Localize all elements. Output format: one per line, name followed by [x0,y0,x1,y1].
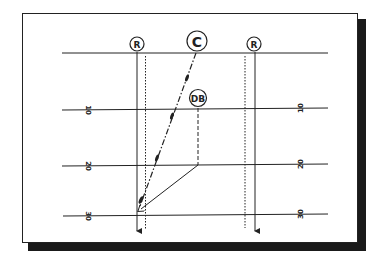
left-yard-label-20: 20 [84,161,92,171]
player-center: C [187,31,207,51]
left-yard-label-10: 10 [84,105,92,115]
left-yard-label-30: 30 [84,211,92,221]
player-r-right: R [247,37,261,51]
player-label: R [251,40,258,50]
player-db: DB [190,90,207,107]
right-yard-labels: 10 20 30 [297,103,305,219]
player-label: DB [191,94,205,104]
yard-lines [62,53,328,216]
right-yard-label-10: 10 [297,103,305,113]
right-yard-label-30: 30 [297,209,305,219]
left-yard-labels: 10 20 30 [84,105,92,221]
yard-line-10 [62,108,328,110]
play-diagram: 10 20 30 10 20 30 R C R DB [0,0,384,264]
football-icon [169,112,174,120]
player-label: C [192,34,202,50]
football-icons [138,74,190,204]
yard-line-30 [63,214,328,216]
player-r-left: R [130,37,144,51]
right-yard-label-20: 20 [297,159,305,169]
yard-line-20 [62,164,328,166]
player-label: R [134,40,141,50]
db-break-route [141,165,198,209]
football-icon [184,74,189,82]
